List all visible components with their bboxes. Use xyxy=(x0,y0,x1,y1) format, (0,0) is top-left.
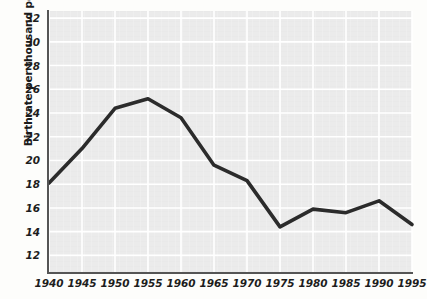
x-tick-1965: 1965 xyxy=(199,277,228,289)
x-tick-1945: 1945 xyxy=(67,277,96,289)
x-tick-1985: 1985 xyxy=(331,277,360,289)
plot-area xyxy=(49,11,412,272)
x-tick-1970: 1970 xyxy=(232,277,261,289)
x-tick-1975: 1975 xyxy=(265,277,294,289)
x-tick-1960: 1960 xyxy=(166,277,195,289)
x-tick-1995: 1995 xyxy=(397,277,426,289)
chart-figure: Birthrate per thousand population 323028… xyxy=(0,0,427,299)
x-tick-1940: 1940 xyxy=(34,277,63,289)
x-tick-1950: 1950 xyxy=(100,277,129,289)
x-tick-1980: 1980 xyxy=(298,277,327,289)
y-axis-line xyxy=(47,10,49,273)
x-axis-line xyxy=(47,272,413,274)
x-tick-1990: 1990 xyxy=(364,277,393,289)
chart-svg xyxy=(49,11,412,272)
x-tick-1955: 1955 xyxy=(133,277,162,289)
